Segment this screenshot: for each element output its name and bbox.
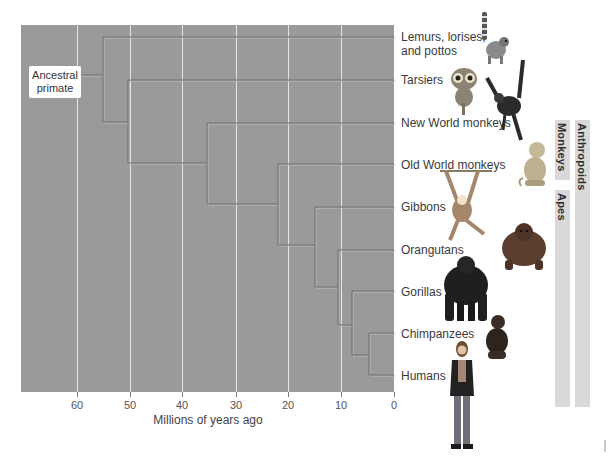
axis-title: Millions of years ago [153,413,262,427]
taxon-label-lemurs: Lemurs, lorises, and pottos [401,30,486,58]
axis-tick-10 [341,392,342,397]
taxon-label-line: Lemurs, lorises, [401,30,486,44]
page-edge-mark [604,440,606,452]
axis-tick-label: 60 [71,399,83,411]
group-bar-apes: Apes [555,190,570,407]
tarsier-illustration [447,65,481,115]
human-illustration [444,340,480,452]
taxon-label-chimpanzees: Chimpanzees [401,327,474,341]
orangutan-illustration [499,220,549,272]
axis-tick-0 [394,392,395,397]
grid-line-30 [236,25,237,392]
axis-tick-label: 30 [230,399,242,411]
taxon-label-line: and pottos [401,44,486,58]
taxon-label-gorillas: Gorillas [401,285,442,299]
taxon-label-humans: Humans [401,369,446,383]
axis-tick-label: 20 [282,399,294,411]
grid-line-40 [182,25,183,392]
axis-tick-30 [236,392,237,397]
axis-tick-60 [77,392,78,397]
axis-tick-label: 10 [335,399,347,411]
group-bar-anthropoids: Anthropoids [575,120,590,407]
grid-line-50 [130,25,131,392]
axis-tick-50 [130,392,131,397]
axis-tick-label: 0 [391,399,397,411]
taxon-label-tarsiers: Tarsiers [401,73,443,87]
spider-monkey-illustration [483,58,533,143]
grid-line-20 [288,25,289,392]
axis-tick-label: 50 [124,399,136,411]
axis-tick-20 [288,392,289,397]
group-bar-monkeys: Monkeys [555,120,570,180]
ancestral-primate-label: Ancestral primate [29,66,81,98]
gibbon-illustration [440,168,492,248]
ancestral-primate-text: Ancestral primate [31,69,79,95]
axis-tick-label: 40 [176,399,188,411]
group-label-anthropoids: Anthropoids [576,123,588,191]
chimpanzee-illustration [482,313,512,363]
grid-line-10 [341,25,342,392]
group-label-apes: Apes [556,193,568,221]
old-world-monkey-illustration [515,140,551,190]
taxon-label-gibbons: Gibbons [401,200,446,214]
group-label-monkeys: Monkeys [556,123,568,171]
axis-tick-40 [182,392,183,397]
